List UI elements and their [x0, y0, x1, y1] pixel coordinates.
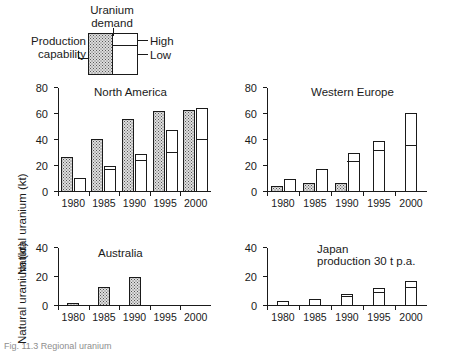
- x-tick: [180, 306, 181, 310]
- x-tick: [150, 306, 151, 310]
- y-tick: 20: [54, 276, 58, 277]
- x-tick: [89, 192, 90, 196]
- x-tick: [267, 192, 268, 196]
- bar-uranium-demand: [166, 130, 178, 192]
- demand-low-level-line: [341, 296, 353, 297]
- x-tick: [395, 192, 396, 196]
- y-tick: 60: [54, 113, 58, 114]
- y-tick-label: 0: [251, 187, 257, 198]
- legend-production-swatch: [89, 34, 113, 74]
- demand-low-level-line: [135, 160, 147, 161]
- bar-production-capability: [271, 186, 283, 193]
- bar-uranium-demand: [373, 288, 385, 306]
- demand-low-level-line: [347, 161, 359, 162]
- bar-uranium-demand: [405, 113, 417, 192]
- y-axis-western-europe: [267, 88, 268, 192]
- y-tick-label: 20: [245, 272, 257, 283]
- bar-uranium-demand: [284, 179, 296, 192]
- y-tick-label: 0: [42, 301, 48, 312]
- demand-low-level-line: [405, 287, 417, 288]
- y-axis-north-america: [58, 88, 59, 192]
- x-tick: [299, 306, 300, 310]
- legend-high-label: High: [150, 35, 174, 47]
- axis-y-label-australia: Natural uranium (kt): [16, 242, 28, 344]
- bar-production-capability: [122, 119, 134, 192]
- y-tick-label: 20: [36, 161, 48, 172]
- bar-production-capability: [335, 183, 347, 192]
- bar-uranium-demand: [405, 281, 417, 306]
- legend-leader-high: [138, 40, 148, 41]
- figure-uranium-supply-demand: Uranium demand Production capability Hig…: [0, 0, 450, 352]
- bar-uranium-demand: [348, 153, 360, 192]
- x-tick: [58, 192, 59, 196]
- bar-production-capability: [67, 303, 79, 306]
- legend-title: Uranium demand: [64, 4, 160, 29]
- y-tick-label: 40: [36, 135, 48, 146]
- legend-title-line1: Uranium: [64, 4, 160, 17]
- y-tick-label: 0: [251, 301, 257, 312]
- bar-uranium-demand: [104, 166, 116, 192]
- legend-demand-swatch: [113, 34, 137, 74]
- bar-uranium-demand: [196, 108, 208, 193]
- x-tick: [267, 306, 268, 310]
- bar-uranium-demand: [341, 294, 353, 306]
- y-tick: 40: [263, 247, 267, 248]
- y-tick-label: 80: [245, 83, 257, 94]
- legend-low-label: Low: [150, 49, 171, 61]
- bar-uranium-demand: [309, 299, 321, 306]
- y-tick-label: 40: [245, 243, 257, 254]
- y-tick-label: 20: [245, 161, 257, 172]
- plot-area-australia: 0204019801985199019952000: [58, 248, 211, 306]
- bar-production-capability: [129, 277, 141, 306]
- legend-production-label-line1: Production: [0, 35, 86, 48]
- x-tick: [363, 306, 364, 310]
- legend-leader-production: [78, 58, 88, 59]
- panel-japan: Japan production 30 t p.a. 0204019801985…: [225, 238, 450, 348]
- chart-legend: Uranium demand Production capability Hig…: [0, 4, 215, 76]
- x-tick: [89, 306, 90, 310]
- panel-australia: Natural uranium (kt) Australia 020401980…: [0, 238, 225, 348]
- demand-low-level-line: [309, 299, 321, 300]
- y-tick-label: 80: [36, 83, 48, 94]
- bar-production-capability: [183, 110, 195, 192]
- plot-area-western-europe: 02040608019801985199019952000: [267, 88, 427, 192]
- y-axis-japan: [267, 248, 268, 306]
- x-tick: [395, 306, 396, 310]
- y-tick-label: 20: [36, 272, 48, 283]
- plot-area-north-america: 02040608019801985199019952000: [58, 88, 211, 192]
- y-tick-label: 0: [42, 187, 48, 198]
- y-tick: 80: [54, 87, 58, 88]
- x-tick: [299, 192, 300, 196]
- demand-low-level-line: [196, 139, 208, 140]
- y-tick: 40: [263, 139, 267, 140]
- demand-low-level-line: [373, 292, 385, 293]
- x-tick: [58, 306, 59, 310]
- y-tick: 40: [54, 247, 58, 248]
- y-tick: 60: [263, 113, 267, 114]
- x-tick: [331, 192, 332, 196]
- legend-leader-production-tip: [78, 51, 79, 59]
- plot-area-japan: 0204019801985199019952000: [267, 248, 427, 306]
- demand-low-level-line: [405, 145, 417, 146]
- bar-production-capability: [153, 111, 165, 192]
- x-tick: [119, 306, 120, 310]
- x-tick: [119, 192, 120, 196]
- legend-production-label: Production capability: [0, 35, 86, 60]
- y-tick-label: 60: [245, 109, 257, 120]
- demand-low-level-line: [166, 152, 178, 153]
- bar-uranium-demand: [135, 154, 147, 192]
- bar-uranium-demand: [316, 169, 328, 192]
- y-tick-label: 40: [36, 243, 48, 254]
- y-tick: 80: [263, 87, 267, 88]
- legend-leader-low: [138, 54, 148, 55]
- bar-uranium-demand: [74, 178, 86, 192]
- demand-low-level-line: [373, 150, 385, 151]
- bar-production-capability: [98, 287, 110, 306]
- demand-low-level-line: [74, 178, 86, 179]
- legend-low-divider: [113, 45, 137, 46]
- bar-production-capability: [303, 183, 315, 192]
- demand-low-level-line: [104, 169, 116, 170]
- bar-uranium-demand: [373, 141, 385, 192]
- legend-leader-demand: [113, 28, 114, 36]
- legend-key-swatch: [88, 33, 138, 75]
